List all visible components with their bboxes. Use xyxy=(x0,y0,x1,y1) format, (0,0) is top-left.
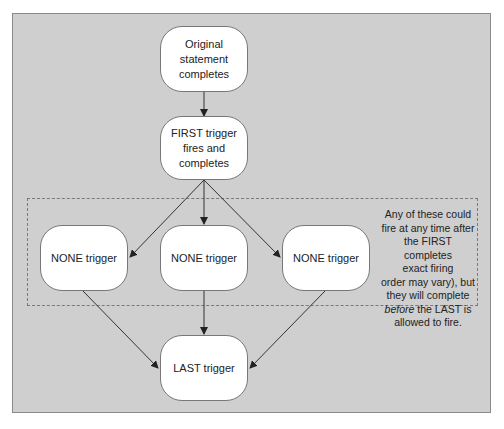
note-line: exact firing xyxy=(380,262,476,276)
annotation-note: Any of these could fire at any time afte… xyxy=(380,208,476,330)
node-first-trigger: FIRST trigger fires and completes xyxy=(160,116,248,180)
edge-none3-last xyxy=(250,291,325,368)
note-line: they will complete xyxy=(380,289,476,303)
node-last-trigger: LAST trigger xyxy=(160,335,248,401)
note-emphasis: before xyxy=(385,303,415,315)
node-none-trigger-3: NONE trigger xyxy=(282,225,370,291)
node-none-trigger-2: NONE trigger xyxy=(160,225,248,291)
edge-none1-last xyxy=(83,291,158,368)
note-line: the FIRST completes xyxy=(380,235,476,262)
node-original-statement: Original statement completes xyxy=(160,26,248,92)
note-line: before the LAST is xyxy=(380,303,476,317)
note-line: allowed to fire. xyxy=(380,316,476,330)
note-line: fire at any time after xyxy=(380,222,476,236)
note-line: Any of these could xyxy=(380,208,476,222)
note-line: order may vary), but xyxy=(380,276,476,290)
note-text: the LAST is xyxy=(414,303,471,315)
node-none-trigger-1: NONE trigger xyxy=(40,225,128,291)
